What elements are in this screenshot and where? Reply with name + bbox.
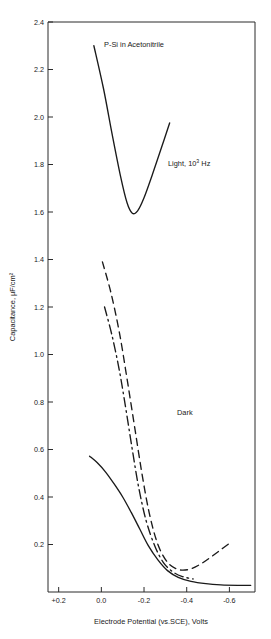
x-tick-label: -0.2 (138, 596, 150, 605)
light-annotation: Light, 103 Hz (168, 158, 211, 168)
dark-annotation: Dark (177, 408, 193, 417)
capacitance-potential-chart: 0.20.40.60.81.01.21.41.61.82.02.22.4 +0.… (0, 0, 271, 639)
plot-frame (48, 22, 255, 592)
y-tick-label: 0.2 (34, 540, 44, 549)
y-axis-ticks: 0.20.40.60.81.01.21.41.61.82.02.22.4 (34, 18, 53, 550)
y-tick-label: 1.0 (34, 350, 44, 359)
y-tick-label: 0.4 (34, 493, 44, 502)
y-tick-label: 1.2 (34, 303, 44, 312)
y-tick-label: 1.6 (34, 208, 44, 217)
chart-title-annotation: P-Si in Acetonitrile (104, 40, 164, 49)
y-tick-label: 2.2 (34, 65, 44, 74)
curve-solid (90, 456, 251, 585)
x-tick-label: -0.4 (181, 596, 193, 605)
curve-dashed (102, 262, 229, 570)
data-curves (90, 46, 251, 586)
x-tick-label: 0.0 (96, 596, 106, 605)
y-tick-label: 1.8 (34, 160, 44, 169)
y-tick-label: 2.4 (34, 18, 44, 27)
y-tick-label: 2.0 (34, 113, 44, 122)
y-tick-label: 0.8 (34, 398, 44, 407)
y-axis-title: Capacitance, μF/cm² (8, 272, 17, 341)
figure-container: 0.20.40.60.81.01.21.41.61.82.02.22.4 +0.… (0, 0, 271, 639)
y-tick-label: 0.6 (34, 445, 44, 454)
curve-dash-dot (105, 307, 194, 579)
curve-solid (94, 46, 170, 214)
y-tick-label: 1.4 (34, 255, 44, 264)
x-tick-label: -0.6 (223, 596, 235, 605)
x-axis-ticks: +0.20.0-0.2-0.4-0.6 (52, 587, 236, 605)
x-axis-title: Electrode Potential (vs.SCE), Volts (94, 617, 208, 626)
svg-text:Light, 103 Hz: Light, 103 Hz (168, 158, 211, 168)
x-tick-label: +0.2 (52, 596, 66, 605)
